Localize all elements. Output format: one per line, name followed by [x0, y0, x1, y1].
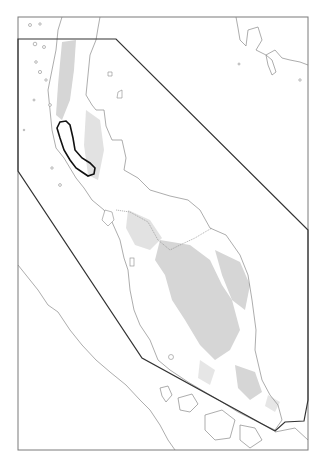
coastline-indochina	[236, 17, 308, 81]
highland-shading	[56, 40, 280, 412]
coastline-sumatra	[18, 265, 308, 450]
coastline-peninsula	[48, 17, 282, 430]
map-canvas	[0, 0, 324, 468]
